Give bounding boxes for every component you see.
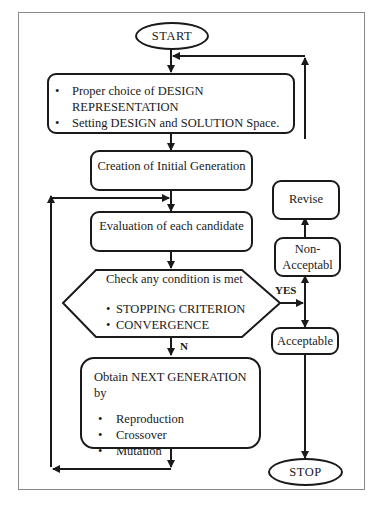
non-acceptable-box: Non- Acceptabl: [274, 237, 341, 277]
non-acceptable-label: Non-: [295, 241, 321, 257]
acceptable-box: Acceptable: [271, 327, 339, 355]
setup-bullet: Setting DESIGN and SOLUTION Space.: [49, 115, 293, 131]
operator-item: Reproduction: [94, 411, 259, 427]
setup-bullet: Proper choice of DESIGNREPRESENTATION: [49, 83, 293, 115]
non-acceptable-label: Acceptabl: [282, 257, 333, 273]
no-label: N: [180, 340, 188, 352]
yes-label: YES: [275, 284, 296, 296]
stop-label: STOP: [289, 465, 321, 480]
stop-node: STOP: [268, 458, 343, 486]
revise-box: Revise: [272, 180, 340, 220]
init-box: Creation of Initial Generation: [90, 150, 253, 191]
check-content: Check any condition is met STOPPING CRIT…: [106, 271, 276, 333]
next-title: Obtain NEXT GENERATION by: [94, 369, 259, 401]
check-title: Check any condition is met: [106, 271, 276, 287]
next-generation-box: Obtain NEXT GENERATION by Reproduction C…: [80, 357, 261, 449]
operator-item: Mutation: [94, 443, 259, 459]
revise-label: Revise: [289, 191, 323, 207]
evaluate-box: Evaluation of each candidate: [90, 211, 253, 252]
start-node: START: [135, 22, 209, 50]
start-label: START: [152, 29, 192, 44]
acceptable-label: Acceptable: [277, 333, 333, 349]
evaluate-label: Evaluation of each candidate: [99, 219, 244, 233]
operator-item: Crossover: [94, 427, 259, 443]
condition-item: STOPPING CRITERION: [106, 301, 276, 317]
init-label: Creation of Initial Generation: [97, 159, 245, 173]
setup-box: Proper choice of DESIGNREPRESENTATION Se…: [47, 73, 295, 134]
condition-item: CONVERGENCE: [106, 317, 276, 333]
